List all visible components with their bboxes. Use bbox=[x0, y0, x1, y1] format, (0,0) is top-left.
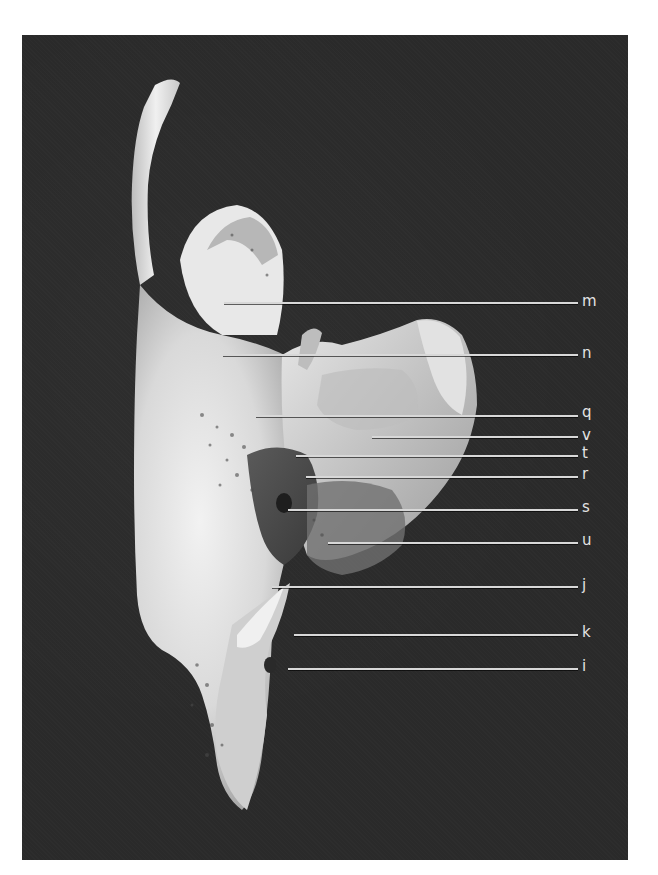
leader-line-s bbox=[288, 509, 578, 511]
leader-line-j bbox=[272, 586, 578, 588]
leader-line-n bbox=[223, 354, 578, 356]
label-q: q bbox=[582, 405, 592, 420]
label-i: i bbox=[582, 659, 586, 674]
leader-line-k bbox=[294, 634, 578, 636]
leader-line-i bbox=[288, 668, 578, 670]
label-v: v bbox=[582, 428, 591, 443]
leader-line-t bbox=[296, 455, 578, 457]
label-n: n bbox=[582, 346, 592, 361]
label-u: u bbox=[582, 533, 592, 548]
specimen-photo bbox=[22, 35, 628, 860]
label-t: t bbox=[582, 446, 588, 461]
label-r: r bbox=[582, 467, 588, 482]
label-s: s bbox=[582, 500, 590, 515]
leader-line-r bbox=[306, 476, 578, 478]
leader-line-m bbox=[224, 302, 578, 304]
leader-line-v bbox=[372, 436, 578, 438]
label-k: k bbox=[582, 625, 591, 640]
leader-line-q bbox=[256, 415, 578, 417]
bone-specimen-image bbox=[22, 35, 628, 860]
label-j: j bbox=[582, 578, 586, 593]
label-m: m bbox=[582, 294, 597, 309]
leader-line-u bbox=[328, 542, 578, 544]
